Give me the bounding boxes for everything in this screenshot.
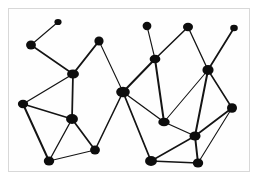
graph-node — [193, 159, 203, 168]
graph-node — [189, 132, 200, 141]
node-layer — [18, 19, 238, 168]
graph-node — [150, 55, 161, 64]
graph-node — [18, 100, 28, 108]
graph-node — [230, 25, 238, 32]
graph-edge — [151, 161, 198, 163]
graph-figure — [0, 0, 262, 187]
graph-node — [116, 87, 130, 97]
graph-node — [143, 22, 152, 30]
graph-edge — [208, 70, 232, 108]
graph-edge — [164, 70, 208, 122]
graph-edge — [23, 74, 73, 104]
graph-edge — [155, 27, 188, 59]
graph-edge — [49, 119, 72, 161]
graph-edge — [188, 27, 208, 70]
graph-edge — [151, 136, 195, 161]
graph-edge — [31, 22, 58, 45]
graph-edge — [208, 28, 234, 70]
graph-edge — [198, 108, 232, 163]
graph-node — [158, 118, 169, 127]
graph-edge — [99, 41, 123, 92]
diagram-canvas — [0, 0, 262, 187]
graph-node — [54, 19, 61, 25]
graph-edge — [73, 41, 99, 74]
graph-node — [227, 103, 237, 113]
graph-edge — [72, 74, 73, 119]
graph-edge — [147, 26, 155, 59]
graph-edge — [195, 70, 208, 136]
graph-edge — [155, 59, 164, 122]
graph-node — [145, 156, 157, 166]
graph-edge — [23, 104, 72, 119]
graph-edge — [23, 104, 49, 161]
graph-node — [183, 23, 193, 31]
graph-node — [67, 70, 79, 79]
graph-edge — [72, 119, 95, 150]
graph-node — [94, 37, 103, 46]
graph-edge — [31, 45, 73, 74]
graph-node — [44, 157, 54, 166]
graph-edge — [95, 92, 123, 150]
graph-node — [66, 114, 78, 124]
graph-node — [202, 65, 213, 75]
graph-node — [90, 146, 100, 155]
graph-node — [26, 41, 36, 50]
graph-edge — [49, 150, 95, 161]
graph-edge — [123, 59, 155, 92]
